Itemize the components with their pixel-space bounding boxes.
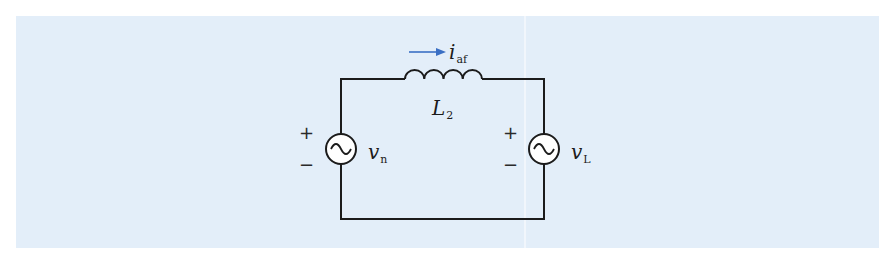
inductor-icon [405,70,482,79]
wire-top-left [341,79,405,134]
ac-source-left-icon [326,134,356,164]
source-left-label: vn [368,142,387,162]
source-left-minus: − [299,156,314,174]
source-right-minus: − [503,156,518,174]
circuit-diagram [0,0,894,263]
current-arrow-icon [409,48,446,56]
source-left-plus: + [299,124,314,142]
inductor-label: L2 [432,98,453,118]
source-right-label: vL [571,142,591,162]
source-right-plus: + [503,124,518,142]
current-label: iaf [449,42,467,62]
ac-source-right-icon [529,134,559,164]
